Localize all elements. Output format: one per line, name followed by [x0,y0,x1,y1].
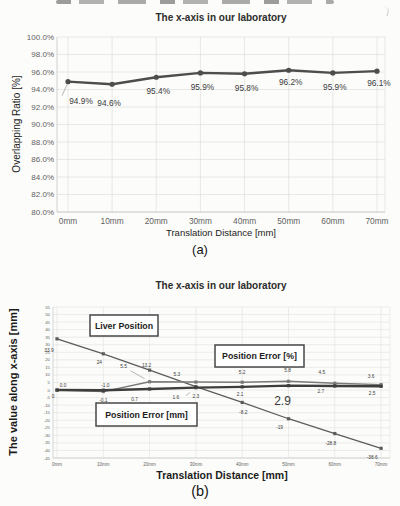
chart-title: The x-axis in our laboratory [155,12,287,23]
data-label: 95.8% [235,83,259,93]
figure: 80.0%82.0%84.0%86.0%88.0%90.0%92.0%94.0%… [0,0,400,506]
svg-text:0mm: 0mm [59,216,78,226]
caption-b: (b) [0,483,400,499]
data-label: 95.9% [323,82,347,92]
data-label: 2.3 [193,394,200,399]
svg-text:40mm: 40mm [233,216,256,226]
data-point-marker [333,384,336,387]
data-point-marker [110,82,115,87]
axis-tick-labels: 80.0%82.0%84.0%86.0%88.0%90.0%92.0%94.0%… [27,33,389,226]
svg-text:-35: -35 [44,440,51,445]
data-label: 95.4% [147,86,171,96]
svg-text:88.0%: 88.0% [31,138,54,147]
data-point-marker [65,79,70,84]
svg-text:80.0%: 80.0% [31,208,54,217]
svg-text:30: 30 [45,342,50,347]
data-label: 5.2 [239,370,246,375]
data-point-marker [380,447,383,450]
svg-text:60mm: 60mm [329,462,342,467]
svg-text:-15: -15 [44,410,51,415]
data-point-marker [287,384,290,387]
data-point-marker [287,417,290,420]
gridlines [57,37,385,212]
svg-text:90.0%: 90.0% [31,120,54,129]
svg-text:-20: -20 [44,418,51,423]
data-label: 33.9 [44,348,54,353]
data-label: 94.9% [69,96,93,106]
data-label: 96.1% [367,78,391,88]
svg-text:70mm: 70mm [365,216,388,226]
chart-a-overlapping-ratio: 80.0%82.0%84.0%86.0%88.0%90.0%92.0%94.0%… [0,6,400,242]
y-axis-title: Overlapping Ratio [%] [11,75,22,172]
data-point-marker [241,381,244,384]
svg-text:35: 35 [45,335,50,340]
svg-text:30mm: 30mm [189,216,212,226]
svg-text:20: 20 [45,357,50,362]
svg-text:-40: -40 [44,448,51,453]
data-label: 2.9 [274,394,291,408]
svg-text:86.0%: 86.0% [31,155,54,164]
data-point-marker [241,385,244,388]
data-point-marker [374,69,379,74]
data-label: 95.9% [191,82,215,92]
data-label: 5.5 [120,364,127,369]
data-point-marker [148,387,151,390]
data-label: -8.2 [239,410,248,415]
data-point-marker [241,401,244,404]
data-point-marker [55,337,58,340]
svg-text:-30: -30 [44,433,51,438]
svg-text:10mm: 10mm [101,216,124,226]
data-label: 2.1 [237,392,244,397]
svg-text:55: 55 [45,305,50,310]
svg-text:40mm: 40mm [236,462,249,467]
data-point-marker [287,380,290,383]
data-point-marker [148,380,151,383]
svg-text:-45: -45 [44,456,51,461]
data-point-marker [102,389,105,392]
svg-text:15: 15 [45,365,50,370]
svg-text:-10: -10 [44,403,51,408]
data-label: 94.6% [97,98,121,108]
data-label: 4.5 [318,370,325,375]
data-label: 0 [52,394,55,399]
data-label: 0.0 [60,383,67,388]
svg-text:-5: -5 [46,395,50,400]
svg-text:45: 45 [45,320,50,325]
svg-text:40: 40 [45,327,50,332]
data-point-marker [55,388,58,391]
svg-text:20mm: 20mm [145,216,168,226]
legend-box: Liver Position [90,315,158,336]
svg-text:96.0%: 96.0% [31,68,54,77]
data-point-marker [380,385,383,388]
legend-box: Position Error [%] [215,345,304,367]
svg-text:-25: -25 [44,425,51,430]
svg-text:30mm: 30mm [190,462,203,467]
data-label: -19 [276,425,283,430]
svg-text:20mm: 20mm [143,462,156,467]
svg-text:0: 0 [48,388,51,393]
svg-text:98.0%: 98.0% [31,50,54,59]
svg-text:100.0%: 100.0% [27,33,54,42]
data-label: 5.8 [284,368,291,373]
data-label: -1.0 [101,383,110,388]
data-label: 13.2 [142,363,152,368]
svg-text:5: 5 [48,380,51,385]
svg-text:50: 50 [45,312,50,317]
legend-label: Position Error [%] [222,351,297,361]
svg-text:50mm: 50mm [282,462,295,467]
x-axis-title: Translation Distance [mm] [166,227,276,238]
legend-label: Position Error [mm] [105,410,188,420]
data-label: 1.6 [173,395,180,400]
data-point-marker [242,71,247,76]
chart-title: The x-axis in our laboratory [155,280,287,291]
data-label: 0.7 [131,397,138,402]
svg-text:0mm: 0mm [52,462,62,467]
data-label: -38.6 [367,455,378,460]
caption-a: (a) [0,242,400,257]
svg-text:94.0%: 94.0% [31,85,54,94]
data-label: 5.3 [174,372,181,377]
data-label: 2.5 [369,391,376,396]
data-label: -28.8 [325,441,336,446]
svg-text:60mm: 60mm [321,216,344,226]
svg-text:92.0%: 92.0% [31,103,54,112]
